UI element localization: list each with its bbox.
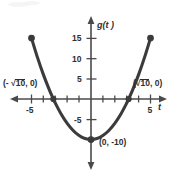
vertex-dot bbox=[88, 136, 95, 143]
y-axis-label: g(t ) bbox=[97, 21, 114, 30]
x-tick-label-5: 5 bbox=[148, 106, 153, 115]
endpoint-dot-right bbox=[147, 35, 154, 42]
y-tick-label-10: 10 bbox=[72, 55, 81, 64]
root-label-right-close: , 0) bbox=[150, 78, 162, 88]
radical-left: √10 bbox=[11, 79, 25, 88]
root-dot-right bbox=[126, 96, 132, 102]
root-label-right: (√10, 0) bbox=[133, 79, 162, 88]
root-label-left-open: (- bbox=[3, 78, 11, 88]
graph-figure: g(t ) t 15 10 5 -5 -5 5 (- √10, 0) (√10,… bbox=[0, 0, 175, 174]
y-tick-label-15: 15 bbox=[72, 34, 81, 43]
radicand-right: 10 bbox=[141, 78, 150, 88]
x-axis bbox=[10, 96, 167, 103]
y-tick-label-5: 5 bbox=[77, 75, 82, 84]
root-label-left: (- √10, 0) bbox=[3, 79, 37, 88]
root-label-left-close: , 0) bbox=[25, 78, 37, 88]
y-tick-label-neg5: -5 bbox=[74, 116, 82, 125]
x-axis-label: t bbox=[158, 103, 161, 112]
vertex-label: (0, -10) bbox=[99, 138, 126, 147]
radical-vinculum-right bbox=[140, 79, 149, 80]
endpoint-dot-left bbox=[28, 35, 35, 42]
scan-artifact bbox=[24, 1, 40, 5]
x-tick-label-neg5: -5 bbox=[26, 106, 34, 115]
radical-right: √10 bbox=[136, 79, 150, 88]
radicand-left: 10 bbox=[16, 78, 25, 88]
root-dot-left bbox=[50, 96, 56, 102]
y-axis bbox=[88, 16, 95, 170]
radical-vinculum-left bbox=[15, 79, 24, 80]
